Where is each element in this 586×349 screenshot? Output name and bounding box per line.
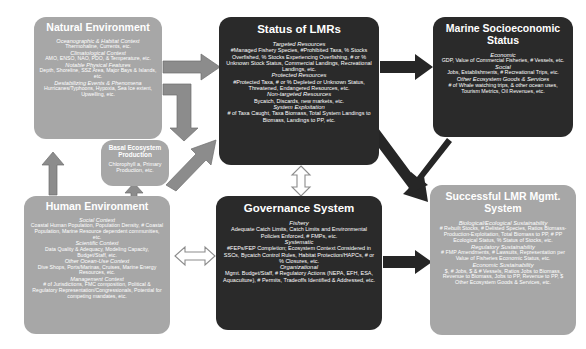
node-group: Oceanographic & Habitat Context Thermoha… <box>39 38 157 50</box>
node-basal-ecosystem-production[interactable]: Basal Ecosystem Production Chlorophyll a… <box>101 140 169 186</box>
node-group: Social Context Coastal Human Population,… <box>30 217 164 241</box>
node-group: Chlorophyll a, Primary Production, etc. <box>105 161 165 173</box>
node-body: Oceanographic & Habitat Context Thermoha… <box>39 38 157 98</box>
node-group: Other Ecosystem Goods & Services # of Wh… <box>439 76 567 94</box>
node-title: Governance System <box>244 202 355 215</box>
group-header: Non-targeted Resources <box>226 91 372 98</box>
node-group: Destabilizing Events & Phenomena Hurrica… <box>39 80 157 98</box>
node-group: System Exploitation # of Taxa Caught, Ta… <box>226 104 372 123</box>
arrow-natural-environment-to-basal-ecosystem-production <box>163 84 209 142</box>
node-group: Management Context # of Jurisdictions, F… <box>30 276 164 300</box>
group-detail: Chlorophyll a, Primary Production, etc. <box>105 161 165 173</box>
node-group: Protected Resources #Protected Taxa, # o… <box>226 72 372 91</box>
node-title: Human Environment <box>46 201 149 213</box>
node-title: Basal Ecosystem Production <box>105 144 165 158</box>
node-marine-socioeconomic-status[interactable]: Marine Socioeconomic Status Economic GDP… <box>433 17 573 137</box>
group-detail: # Rebuilt Stocks, # Delisted Species, Ra… <box>436 226 570 244</box>
node-group: Regulatory Sustainability # FMP Amendmen… <box>436 244 570 262</box>
node-body: Chlorophyll a, Primary Production, etc. <box>105 161 165 173</box>
group-detail: Mgmt. Budget/Staff, # Regulatory Actions… <box>223 270 375 282</box>
node-group: Notable Physical Features Depth, Shoreli… <box>39 62 157 80</box>
node-group: Biological/Ecological Sustainability # R… <box>436 220 570 244</box>
arrow-basal-ecosystem-production-to-status-of-lmrs <box>166 140 224 192</box>
node-body: Social Context Coastal Human Population,… <box>30 217 164 300</box>
node-successful-lmr-mgmt-system[interactable]: Successful LMR Mgmt. System Biological/E… <box>430 185 576 335</box>
arrow-status-of-lmrs-to-marine-socioeconomic-status <box>380 54 434 80</box>
node-title: Status of LMRs <box>257 23 341 36</box>
arrow-human-environment-to-governance-system <box>175 247 215 265</box>
group-header: Protected Resources <box>226 72 372 79</box>
group-detail: # of Taxa Caught, Taxa Biomass, Total Sy… <box>226 110 372 122</box>
node-body: Economic GDP, Value of Commercial Fisher… <box>439 52 567 95</box>
node-status-of-lmrs[interactable]: Status of LMRs Targeted Resources #Manag… <box>219 17 379 165</box>
node-human-environment[interactable]: Human Environment Social Context Coastal… <box>24 196 170 334</box>
group-detail: #Protected Taxa, # or % Depleted or Unkn… <box>226 79 372 91</box>
node-group: Non-targeted Resources Bycatch, Discards… <box>226 91 372 104</box>
group-detail: Adequate Catch Limits, Catch Limits and … <box>223 226 375 238</box>
group-detail: #Managed Fishery Species, #Prohibited Ta… <box>226 47 372 72</box>
node-group: Social Jobs, Establishments, # Recreatio… <box>439 64 567 76</box>
group-header: Fishery <box>223 220 375 227</box>
group-detail: Hurricanes/Typhoons, Hypoxia, Sea Ice ex… <box>39 86 157 98</box>
node-group: Economic GDP, Value of Commercial Fisher… <box>439 52 567 64</box>
arrow-governance-system-to-successful-lmr-mgmt-system <box>383 250 433 274</box>
group-detail: # FMP Amendments, # Lawsuits, Representa… <box>436 250 570 262</box>
node-body: Fishery Adequate Catch Limits, Catch Lim… <box>223 220 375 283</box>
group-detail: Depth, Shoreline, SSZ Area, Major Bays &… <box>39 68 157 80</box>
node-title: Successful LMR Mgmt. System <box>436 191 570 215</box>
group-header: Organizational <box>223 264 375 271</box>
group-detail: Coastal Human Population, Population Den… <box>30 223 164 240</box>
arrow-natural-environment-to-status-of-lmrs <box>163 54 221 80</box>
node-group: Other Ocean-Use Context Dive Shops, Port… <box>30 258 164 276</box>
group-header: Targeted Resources <box>226 41 372 48</box>
group-detail: # of Whale watching trips, & other ocean… <box>439 83 567 95</box>
node-title: Natural Environment <box>46 22 149 34</box>
group-detail: Dive Shops, Ports/Marinas, Cruises, Mari… <box>30 265 164 277</box>
node-governance-system[interactable]: Governance System Fishery Adequate Catch… <box>216 196 382 330</box>
node-natural-environment[interactable]: Natural Environment Oceanographic & Habi… <box>34 17 162 139</box>
group-detail: $, # Jobs, $ & # Vessels, Ratios Jobs to… <box>436 269 570 287</box>
group-header: System Exploitation <box>226 104 372 111</box>
node-group: Fishery Adequate Catch Limits, Catch Lim… <box>223 220 375 239</box>
arrow-status-of-lmrs-to-governance-system <box>292 166 310 196</box>
node-group: Climatological Context AMO, ENSO, NAO, P… <box>39 50 157 62</box>
node-body: Targeted Resources #Managed Fishery Spec… <box>226 41 372 123</box>
node-group: Organizational Mgmt. Budget/Staff, # Reg… <box>223 264 375 283</box>
diagram-canvas: Natural Environment Oceanographic & Habi… <box>0 0 586 349</box>
node-group: Targeted Resources #Managed Fishery Spec… <box>226 41 372 72</box>
group-detail: Data Quality & Adequacy, Modeling Capaci… <box>30 247 164 259</box>
node-body: Biological/Ecological Sustainability # R… <box>436 220 570 287</box>
node-group: Systematic #FEPs/FEP Completion; Ecosyst… <box>223 239 375 264</box>
arrow-natural-environment-to-human-environment <box>41 152 65 196</box>
node-title: Marine Socioeconomic Status <box>439 23 567 47</box>
node-group: Economic Sustainability $, # Jobs, $ & #… <box>436 262 570 286</box>
group-detail: # of Jurisdictions, FMC composition, Pol… <box>30 282 164 299</box>
group-detail: #FEPs/FEP Completion; Ecosystem Context … <box>223 245 375 263</box>
group-header: Systematic <box>223 239 375 246</box>
node-group: Scientific Context Data Quality & Adequa… <box>30 240 164 258</box>
